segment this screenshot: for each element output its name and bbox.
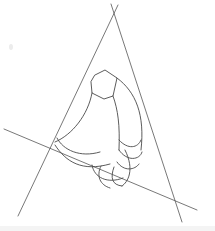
segment-arc-2 bbox=[55, 93, 92, 142]
segment-arc-5 bbox=[119, 140, 141, 147]
thumb-tip-shape bbox=[91, 70, 117, 99]
construction-lines bbox=[4, 4, 197, 222]
segment-arc-1 bbox=[113, 96, 119, 150]
segment-arc-7 bbox=[117, 162, 139, 169]
base-line bbox=[4, 129, 197, 210]
bottom-band bbox=[0, 226, 215, 231]
sketch-canvas bbox=[0, 0, 215, 231]
segment-arc-4 bbox=[55, 145, 110, 167]
segment-arc-0 bbox=[117, 78, 142, 150]
segment-arc-3 bbox=[57, 138, 100, 154]
right-line bbox=[111, 4, 182, 222]
thumb-form bbox=[55, 70, 142, 188]
segment-arc-6 bbox=[119, 150, 142, 159]
